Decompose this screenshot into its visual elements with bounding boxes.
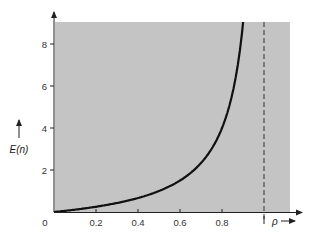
plot-area xyxy=(55,22,290,212)
x-tick-label: 0.6 xyxy=(173,217,186,228)
y-tick-label: 2 xyxy=(42,165,47,176)
x-tick-label: 0.8 xyxy=(215,217,228,228)
y-tick-label: 6 xyxy=(42,81,47,92)
origin-label: 0 xyxy=(42,217,47,228)
y-axis-label: E(n) xyxy=(10,144,29,155)
x-tick-label: 0.2 xyxy=(89,217,102,228)
y-tick-label: 4 xyxy=(42,123,47,134)
y-tick-label: 8 xyxy=(42,39,47,50)
x-tick-label: 0.4 xyxy=(131,217,144,228)
x-axis-label: ρ xyxy=(271,216,278,227)
y-ticks: 2468 xyxy=(42,39,54,176)
chart: 2468 0.20.40.60.8 0 E(n) ρ xyxy=(0,0,309,236)
